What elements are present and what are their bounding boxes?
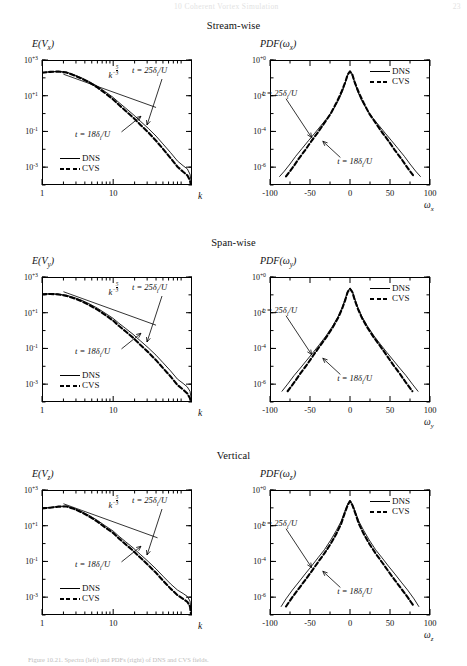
legend-entry-cvs: CVS [370, 506, 410, 515]
xtick-label: 0 [348, 618, 352, 628]
ytick-label: 10+0 [234, 485, 266, 496]
annotation-leader [323, 571, 341, 587]
ytick-label: 10-4 [234, 556, 266, 567]
ytick-label: 10-6 [234, 592, 266, 603]
figure-page: 10 Coherent Vortex Simulation 23 Stream-… [0, 0, 467, 666]
annotation-t18-pdf-wz: t = 18δi/U [337, 586, 372, 598]
legend-label-cvs: CVS [392, 506, 410, 516]
annotation-t25-pdf-wz: t = 25δi/U [262, 518, 297, 530]
xtick-label: 50 [386, 618, 395, 628]
figure-caption: Figure 10.21. Spectra (left) and PDFs (r… [28, 656, 448, 663]
xtick-label: -100 [262, 618, 278, 628]
xaxis-symbol-pdf-wz: ωz [424, 630, 433, 642]
xtick-label: 100 [424, 618, 437, 628]
legend-entry-dns: DNS [370, 496, 410, 505]
legend-pdf-wz: DNSCVS [370, 496, 410, 516]
annotation-leader [286, 529, 312, 568]
xtick-label: -50 [304, 618, 315, 628]
legend-swatch-cvs [370, 506, 390, 515]
legend-swatch-dns [370, 496, 390, 505]
legend-label-dns: DNS [392, 496, 410, 506]
